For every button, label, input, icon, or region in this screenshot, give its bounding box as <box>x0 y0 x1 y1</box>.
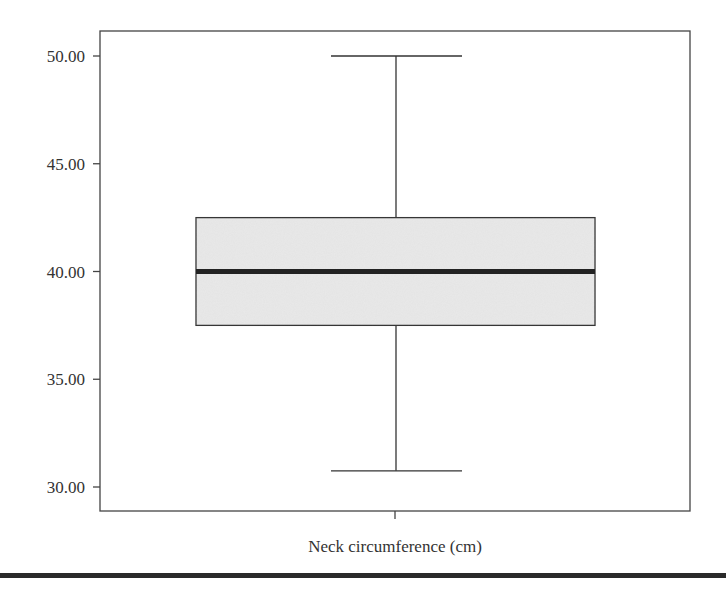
bottom-rule <box>0 573 726 578</box>
y-tick-label: 30.00 <box>47 478 85 497</box>
box-group <box>196 56 595 471</box>
y-axis: 30.0035.0040.0045.0050.00 <box>47 47 100 497</box>
y-tick-label: 35.00 <box>47 370 85 389</box>
y-tick-label: 50.00 <box>47 47 85 66</box>
y-tick-label: 40.00 <box>47 263 85 282</box>
box-plot-chart: 30.0035.0040.0045.0050.00 Neck circumfer… <box>0 0 726 594</box>
y-tick-label: 45.00 <box>47 155 85 174</box>
x-axis-label: Neck circumference (cm) <box>308 537 482 556</box>
